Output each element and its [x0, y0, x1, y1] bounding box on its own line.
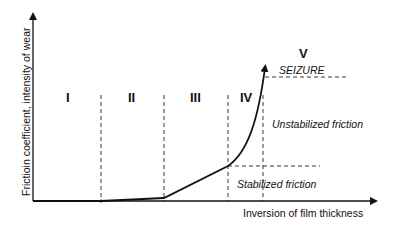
x-axis-label: Inversion of film thickness: [243, 207, 363, 219]
unstabilized-annotation: Unstabilized friction: [272, 118, 363, 130]
region-V-label: V: [299, 46, 308, 61]
region-I-label: I: [66, 90, 70, 105]
wear-curve: [33, 68, 265, 201]
region-III-label: III: [190, 90, 201, 105]
region-IV-label: IV: [240, 90, 252, 105]
stabilized-annotation: Stabilized friction: [237, 178, 316, 190]
region-II-label: II: [128, 90, 135, 105]
y-axis-label: Frictioin coefficient, intensity of wear: [20, 28, 32, 196]
diagram-canvas: [0, 0, 393, 228]
seizure-annotation: SEIZURE: [279, 64, 325, 76]
